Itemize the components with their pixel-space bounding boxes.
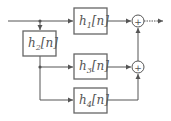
svg-text:h2[n]: h2[n] [28, 36, 58, 52]
svg-text:+: + [134, 17, 142, 27]
block-h2: h2[n] [23, 31, 58, 56]
svg-text:h3[n]: h3[n] [79, 59, 109, 75]
svg-text:h1[n]: h1[n] [79, 14, 109, 30]
block-h3: h3[n] [74, 54, 109, 79]
summer-1: + [132, 15, 144, 27]
summer-2: + [132, 61, 144, 73]
wire-h4-to-sum2 [107, 74, 138, 100]
svg-text:+: + [134, 63, 142, 73]
block-diagram: h1[n] h2[n] h3[n] h4[n] + + [0, 0, 171, 121]
svg-text:h4[n]: h4[n] [79, 93, 109, 109]
block-h1: h1[n] [74, 8, 109, 34]
block-h4: h4[n] [74, 88, 109, 113]
